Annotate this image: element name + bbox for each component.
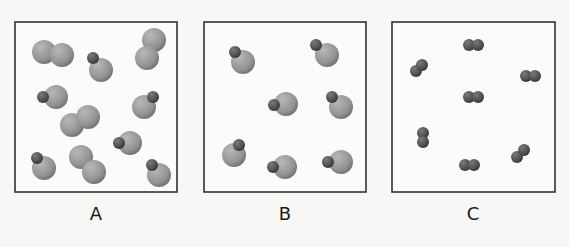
small-atom [416,59,428,71]
small-atom [310,39,322,51]
large-atom [135,46,159,70]
small-atom [233,139,245,151]
small-atom [146,159,158,171]
small-atom [518,144,530,156]
small-atom [267,161,279,173]
panel-a [15,22,177,192]
small-atom [472,39,484,51]
small-atom [268,99,280,111]
small-atom [37,91,49,103]
small-atom [31,152,43,164]
small-atom [113,137,125,149]
panel-label-c: C [453,203,493,224]
large-atom [82,160,106,184]
small-atom [326,91,338,103]
small-atom [147,91,159,103]
small-atom [229,46,241,58]
small-atom [472,91,484,103]
panel-label-b: B [265,203,305,224]
small-atom [529,70,541,82]
panel-label-a: A [76,203,116,224]
small-atom [417,136,429,148]
panel-b [204,22,366,192]
large-atom [76,105,100,129]
large-atom [50,43,74,67]
small-atom [468,159,480,171]
small-atom [87,52,99,64]
small-atom [322,156,334,168]
panel-c [392,22,555,192]
